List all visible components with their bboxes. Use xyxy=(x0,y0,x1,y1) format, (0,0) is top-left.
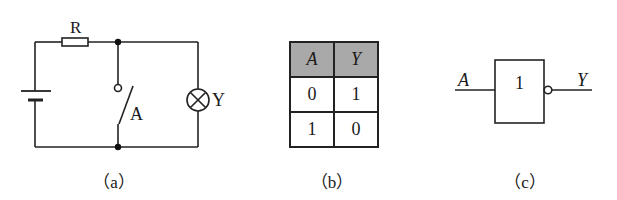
lamp-icon xyxy=(187,89,209,111)
battery-icon xyxy=(21,91,51,100)
gate-symbol: 1 xyxy=(515,73,524,93)
junction-dot xyxy=(115,39,121,45)
cell: 1 xyxy=(334,77,378,112)
lamp-label: Y xyxy=(212,90,225,110)
switch-label: A xyxy=(130,104,143,124)
resistor-label: R xyxy=(70,18,82,37)
caption-b: （b） xyxy=(302,168,362,193)
truth-table: A Y 0 1 1 0 xyxy=(289,41,379,148)
table-header-row: A Y xyxy=(290,42,378,77)
header-y: Y xyxy=(334,42,378,77)
cell: 1 xyxy=(290,112,334,147)
junction-dot xyxy=(115,144,121,150)
caption-a: （a） xyxy=(84,168,144,193)
caption-c: （c） xyxy=(495,168,555,193)
gate-input-label: A xyxy=(457,70,470,90)
table-row: 1 0 xyxy=(290,112,378,147)
circuit-a xyxy=(21,38,209,147)
header-a: A xyxy=(290,42,334,77)
table-row: 0 1 xyxy=(290,77,378,112)
resistor-icon xyxy=(62,38,88,46)
gate-output-label: Y xyxy=(577,70,589,90)
cell: 0 xyxy=(334,112,378,147)
inversion-bubble-icon xyxy=(544,86,552,94)
cell: 0 xyxy=(290,77,334,112)
